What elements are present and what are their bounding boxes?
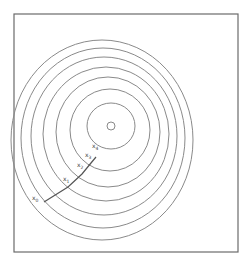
iterate-label: x4 — [92, 142, 99, 151]
iterate-label: x0 — [32, 194, 39, 203]
contour-line — [107, 122, 115, 130]
contour-line — [31, 57, 177, 215]
plot-frame — [14, 14, 238, 252]
contour-lines — [11, 40, 193, 240]
contour-diagram: x0x1x2x3x4 — [0, 0, 252, 265]
descent-path — [44, 157, 96, 202]
iterate-label: x3 — [85, 151, 92, 160]
iterate-label: x1 — [63, 175, 70, 184]
iterate-label: x2 — [77, 161, 84, 170]
contour-line — [11, 40, 193, 240]
iterate-labels: x0x1x2x3x4 — [32, 142, 99, 203]
